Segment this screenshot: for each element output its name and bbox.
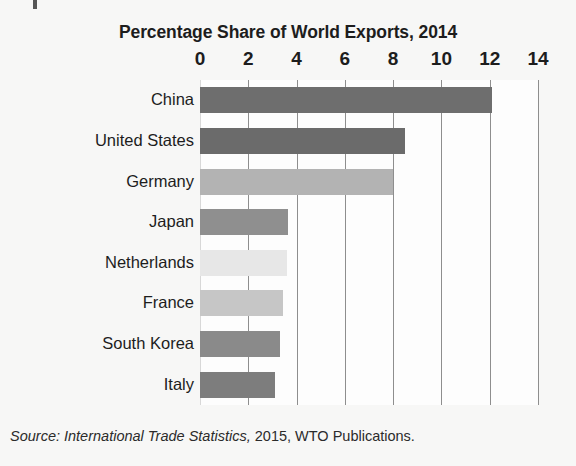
- bar-italy: [200, 372, 275, 398]
- bar-china: [200, 87, 492, 113]
- category-label-germany: Germany: [0, 172, 194, 191]
- x-tick-label-8: 8: [368, 48, 418, 70]
- source-note-rest: 2015, WTO Publications.: [251, 428, 415, 444]
- bar-united-states: [200, 128, 405, 154]
- x-tick-label-2: 2: [223, 48, 273, 70]
- category-label-france: France: [0, 293, 194, 312]
- x-tick-label-4: 4: [272, 48, 322, 70]
- x-tick-label-0: 0: [175, 48, 225, 70]
- category-label-japan: Japan: [0, 212, 194, 231]
- gridline-12: [490, 80, 491, 405]
- bar-netherlands: [200, 250, 287, 276]
- bar-germany: [200, 169, 393, 195]
- bar-japan: [200, 209, 288, 235]
- chart-title: Percentage Share of World Exports, 2014: [0, 22, 576, 43]
- gridline-14: [538, 80, 539, 405]
- category-label-italy: Italy: [0, 375, 194, 394]
- scan-artifact-mark: [33, 0, 37, 9]
- bar-france: [200, 290, 283, 316]
- category-label-south-korea: South Korea: [0, 334, 194, 353]
- plot-area: [200, 80, 538, 405]
- source-note: Source: International Trade Statistics, …: [10, 428, 415, 444]
- x-tick-label-12: 12: [465, 48, 515, 70]
- x-tick-label-10: 10: [416, 48, 466, 70]
- gridline-10: [441, 80, 442, 405]
- category-label-united-states: United States: [0, 131, 194, 150]
- bar-south-korea: [200, 331, 280, 357]
- chart-figure: Percentage Share of World Exports, 2014 …: [0, 0, 576, 466]
- category-label-china: China: [0, 90, 194, 109]
- x-tick-label-6: 6: [320, 48, 370, 70]
- category-label-netherlands: Netherlands: [0, 253, 194, 272]
- x-tick-label-14: 14: [513, 48, 563, 70]
- source-note-italic: Source: International Trade Statistics,: [10, 428, 251, 444]
